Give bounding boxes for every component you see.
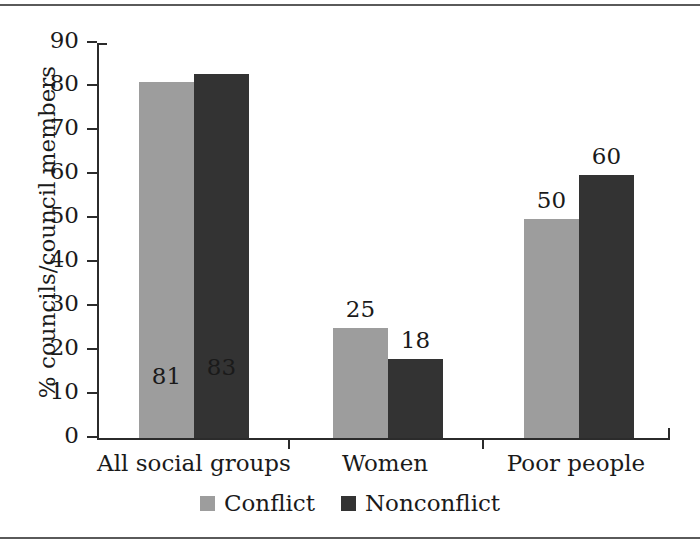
bar-value-poor-people-conflict: 50 (516, 189, 587, 212)
y-axis-line (97, 43, 99, 438)
page-rule-top (0, 4, 700, 6)
legend-item-nonconflict: Nonconflict (341, 492, 500, 515)
y-tick-40: 40 (87, 260, 97, 262)
y-tick-label-40: 40 (50, 248, 79, 271)
plot-area: 0 10 20 30 40 50 60 70 80 90 (97, 43, 670, 438)
legend-swatch-nonconflict-icon (341, 496, 356, 511)
y-tick-90: 90 (87, 41, 97, 43)
bar-value-all-social-groups-nonconflict: 83 (186, 356, 257, 379)
y-tick-80: 80 (87, 84, 97, 86)
bar-value-women-conflict: 25 (325, 298, 396, 321)
bar-value-women-nonconflict: 18 (380, 329, 451, 352)
bar-chart-figure: % councils/council members 0 10 20 30 40… (0, 0, 700, 558)
chart-legend: Conflict Nonconflict (0, 492, 700, 515)
y-tick-label-70: 70 (50, 116, 79, 139)
page-rule-bottom (0, 537, 700, 539)
y-tick-label-0: 0 (64, 424, 79, 447)
y-tick-10: 10 (87, 392, 97, 394)
y-axis-top-cap (97, 43, 107, 45)
bar-poor-people-nonconflict (579, 175, 634, 438)
y-tick-label-80: 80 (50, 72, 79, 95)
y-tick-60: 60 (87, 172, 97, 174)
category-label-poor-people: Poor people (482, 452, 670, 475)
y-tick-label-10: 10 (50, 380, 79, 403)
legend-swatch-conflict-icon (200, 496, 215, 511)
bar-women-nonconflict (388, 359, 443, 438)
y-tick-70: 70 (87, 128, 97, 130)
y-tick-label-60: 60 (50, 160, 79, 183)
y-tick-label-30: 30 (50, 292, 79, 315)
legend-label-nonconflict: Nonconflict (365, 492, 500, 515)
x-separator-2 (482, 438, 484, 449)
bar-all-social-groups-nonconflict (194, 74, 249, 438)
legend-label-conflict: Conflict (224, 492, 315, 515)
category-label-all-social-groups: All social groups (94, 452, 294, 475)
bar-poor-people-conflict (524, 219, 579, 438)
x-axis-right-cap (668, 428, 670, 440)
y-tick-label-50: 50 (50, 204, 79, 227)
y-tick-0: 0 (87, 436, 97, 438)
x-axis-line (97, 438, 670, 440)
y-tick-50: 50 (87, 216, 97, 218)
y-tick-20: 20 (87, 348, 97, 350)
y-tick-label-20: 20 (50, 336, 79, 359)
category-label-women: Women (288, 452, 482, 475)
y-tick-label-90: 90 (50, 29, 79, 52)
legend-item-conflict: Conflict (200, 492, 315, 515)
x-separator-1 (288, 438, 290, 449)
bar-value-poor-people-nonconflict: 60 (571, 145, 642, 168)
y-tick-30: 30 (87, 304, 97, 306)
